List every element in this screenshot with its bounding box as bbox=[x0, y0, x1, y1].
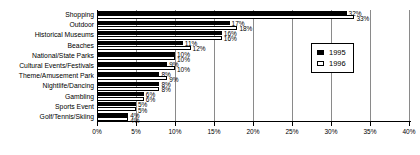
bar-1995 bbox=[97, 72, 159, 76]
bar-rows: Shopping32%33%Outdoor17%18%Historical Mu… bbox=[97, 10, 409, 122]
x-tick-mark bbox=[175, 122, 176, 126]
category-label: Theme/Amusement Park bbox=[19, 72, 94, 80]
x-tick-mark bbox=[292, 122, 293, 126]
legend-item-1996: 1996 bbox=[317, 58, 346, 69]
x-tick-mark bbox=[331, 122, 332, 126]
x-tick-label: 10% bbox=[168, 128, 181, 135]
bar-1995 bbox=[97, 11, 347, 15]
legend-label-1995: 1995 bbox=[329, 48, 346, 57]
bar-1995 bbox=[97, 82, 159, 86]
bar-row: National/State Parks10%10% bbox=[97, 51, 409, 61]
x-tick-label: 5% bbox=[131, 128, 140, 135]
category-label: Golf/Tennis/Skiing bbox=[40, 113, 94, 121]
bar-1996 bbox=[97, 15, 354, 19]
bar-1995 bbox=[97, 113, 128, 117]
bar-row: Sports Event5%5% bbox=[97, 102, 409, 112]
x-tick-mark bbox=[253, 122, 254, 126]
chart-legend: 1995 1996 bbox=[311, 43, 354, 73]
bar-1995 bbox=[97, 41, 183, 45]
x-tick-label: 40% bbox=[402, 128, 415, 135]
bar-row: Golf/Tennis/Skiing4%4% bbox=[97, 112, 409, 122]
bar-1995 bbox=[97, 62, 167, 66]
bar-1996 bbox=[97, 117, 128, 121]
x-tick-label: 35% bbox=[363, 128, 376, 135]
x-tick-mark bbox=[97, 122, 98, 126]
bar-chart: 0%5%10%15%20%25%30%35%40% Shopping32%33%… bbox=[0, 0, 420, 155]
category-label: Cultural Events/Festivals bbox=[19, 62, 94, 70]
x-tick-label: 30% bbox=[324, 128, 337, 135]
category-label: Historical Museums bbox=[35, 31, 94, 39]
x-tick-mark bbox=[370, 122, 371, 126]
bar-row: Shopping32%33% bbox=[97, 10, 409, 20]
x-tick-label: 20% bbox=[246, 128, 259, 135]
category-label: Outdoor bbox=[69, 21, 94, 29]
gridline bbox=[409, 10, 410, 122]
bar-row: Nightlife/Dancing8%8% bbox=[97, 81, 409, 91]
category-label: National/State Parks bbox=[32, 52, 94, 60]
bar-row: Theme/Amusement Park8%9% bbox=[97, 71, 409, 81]
category-label: Shopping bbox=[65, 11, 94, 19]
x-tick-label: 0% bbox=[92, 128, 101, 135]
bar-1995 bbox=[97, 31, 222, 35]
bar-1996 bbox=[97, 36, 222, 40]
plot-area: 0%5%10%15%20%25%30%35%40% Shopping32%33%… bbox=[97, 10, 409, 134]
bar-1996 bbox=[97, 56, 175, 60]
bar-value-label: 4% bbox=[130, 116, 139, 123]
x-tick-mark bbox=[214, 122, 215, 126]
bar-1996 bbox=[97, 97, 144, 101]
category-label: Gambling bbox=[65, 93, 94, 101]
bar-row: Outdoor17%18% bbox=[97, 20, 409, 30]
bar-row: Beaches11%12% bbox=[97, 41, 409, 51]
bar-1995 bbox=[97, 92, 144, 96]
bar-row: Cultural Events/Festivals9%10% bbox=[97, 61, 409, 71]
legend-item-1995: 1995 bbox=[317, 47, 346, 58]
category-label: Beaches bbox=[68, 42, 94, 50]
legend-label-1996: 1996 bbox=[329, 59, 346, 68]
legend-swatch-1996 bbox=[317, 61, 324, 66]
bar-row: Historical Museums16%16% bbox=[97, 30, 409, 40]
bar-1996 bbox=[97, 26, 237, 30]
x-tick-label: 15% bbox=[207, 128, 220, 135]
legend-swatch-1995 bbox=[317, 50, 324, 55]
bar-1995 bbox=[97, 102, 136, 106]
category-label: Sports Event bbox=[55, 103, 94, 111]
x-tick-label: 25% bbox=[285, 128, 298, 135]
category-label: Nightlife/Dancing bbox=[43, 82, 94, 90]
x-tick-mark bbox=[409, 122, 410, 126]
bar-1995 bbox=[97, 52, 175, 56]
bar-1996 bbox=[97, 76, 167, 80]
bar-1995 bbox=[97, 21, 230, 25]
